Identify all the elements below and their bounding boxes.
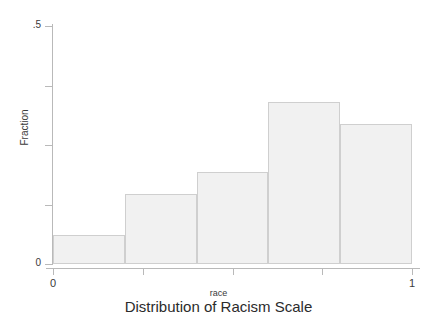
chart-title: Distribution of Racism Scale [0, 298, 437, 315]
y-axis-tick [45, 264, 52, 265]
x-axis-tick [53, 269, 54, 275]
x-axis-title: race [0, 288, 437, 298]
x-axis-tick [412, 269, 413, 275]
x-axis-tick [322, 269, 323, 275]
y-axis-title: Fraction [19, 98, 30, 158]
y-axis-tick [45, 205, 52, 206]
y-axis-tick [45, 26, 52, 27]
histogram-bar [340, 124, 412, 264]
y-axis-tick [45, 145, 52, 146]
histogram-bar [197, 172, 269, 264]
x-axis-tick [233, 269, 234, 275]
y-axis-tick-label: .5 [0, 19, 41, 30]
y-axis-tick-label: 0 [0, 257, 41, 268]
histogram-figure: 0.5 01 Fraction race Distribution of Rac… [0, 0, 437, 320]
histogram-bar [125, 194, 197, 264]
histogram-bar [53, 235, 125, 264]
x-axis-tick [143, 269, 144, 275]
plot-area [53, 26, 412, 264]
y-axis-tick [45, 86, 52, 87]
histogram-bar [268, 102, 340, 264]
